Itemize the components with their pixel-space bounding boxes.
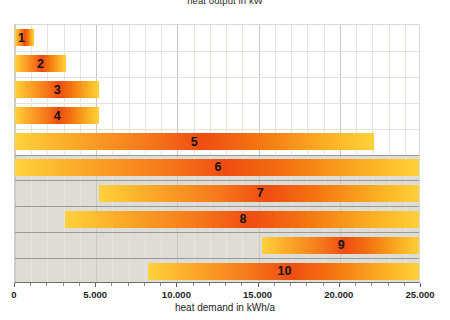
gridline-minor <box>194 25 195 282</box>
x-tick-label: 10.000 <box>162 289 191 300</box>
x-axis-tick-labels: 05.00010.00015.00020.00025.000 <box>0 289 450 303</box>
bar: 9 <box>262 237 420 254</box>
x-axis-ticks <box>14 283 420 288</box>
bar: 7 <box>99 185 420 202</box>
x-tick-minor <box>371 283 372 286</box>
bar-value-label: 9 <box>338 239 345 252</box>
gridline-minor <box>226 25 227 282</box>
x-tick-minor <box>225 283 226 286</box>
bar: 2 <box>15 55 66 72</box>
x-tick-label: 15.000 <box>243 289 272 300</box>
x-tick-label: 0 <box>11 289 16 300</box>
x-tick-label: 20.000 <box>324 289 353 300</box>
x-tick-major <box>258 283 259 287</box>
x-tick-minor <box>290 283 291 286</box>
bar-chart: heat output in kW 12345678910 05.00010.0… <box>0 0 450 320</box>
plot-band <box>15 51 419 77</box>
bar-value-label: 5 <box>191 135 198 148</box>
gridline-major <box>259 25 260 282</box>
plot-area: 12345678910 <box>14 24 420 283</box>
gridline-minor <box>161 25 162 282</box>
bar-value-label: 4 <box>54 109 61 122</box>
x-tick-label: 25.000 <box>405 289 434 300</box>
x-tick-minor <box>160 283 161 286</box>
bar-value-label: 6 <box>214 161 221 174</box>
x-tick-minor <box>355 283 356 286</box>
gridline-minor <box>80 25 81 282</box>
x-tick-minor <box>79 283 80 286</box>
bar: 5 <box>15 133 374 150</box>
bar: 8 <box>65 211 420 228</box>
x-tick-minor <box>306 283 307 286</box>
gridline-major <box>177 25 178 282</box>
bar-value-label: 1 <box>18 32 25 45</box>
bar: 6 <box>15 159 420 176</box>
bar: 10 <box>148 263 420 280</box>
row-separator <box>15 258 419 259</box>
gridline-minor <box>210 25 211 282</box>
x-tick-minor <box>63 283 64 286</box>
bar: 1 <box>15 29 34 46</box>
x-tick-minor <box>111 283 112 286</box>
x-tick-label: 5.000 <box>83 289 107 300</box>
row-separator <box>15 77 419 78</box>
x-tick-minor <box>144 283 145 286</box>
bar-value-label: 7 <box>257 187 264 200</box>
x-tick-minor <box>241 283 242 286</box>
x-tick-minor <box>388 283 389 286</box>
x-tick-major <box>14 283 15 287</box>
bar: 3 <box>15 81 99 98</box>
bar: 4 <box>15 107 99 124</box>
bar-value-label: 8 <box>240 213 247 226</box>
row-separator <box>15 232 419 233</box>
gridline-major <box>96 25 97 282</box>
x-tick-major <box>339 283 340 287</box>
x-tick-minor <box>274 283 275 286</box>
x-tick-minor <box>323 283 324 286</box>
row-separator <box>15 155 419 156</box>
x-tick-minor <box>46 283 47 286</box>
bar-value-label: 2 <box>37 58 44 71</box>
x-tick-minor <box>30 283 31 286</box>
row-separator <box>15 206 419 207</box>
x-tick-minor <box>404 283 405 286</box>
x-tick-minor <box>193 283 194 286</box>
x-tick-major <box>420 283 421 287</box>
gridline-minor <box>242 25 243 282</box>
row-separator <box>15 180 419 181</box>
x-tick-major <box>95 283 96 287</box>
gridline-minor <box>112 25 113 282</box>
gridline-minor <box>145 25 146 282</box>
row-separator <box>15 51 419 52</box>
x-tick-minor <box>209 283 210 286</box>
bar-value-label: 10 <box>277 265 291 278</box>
row-separator <box>15 129 419 130</box>
x-tick-major <box>176 283 177 287</box>
x-axis-title: heat demand in kWh/a <box>0 302 450 313</box>
bar-value-label: 3 <box>54 84 61 97</box>
chart-title: heat output in kW <box>0 0 450 6</box>
plot-band <box>15 25 419 51</box>
x-tick-minor <box>128 283 129 286</box>
row-separator <box>15 103 419 104</box>
gridline-minor <box>129 25 130 282</box>
